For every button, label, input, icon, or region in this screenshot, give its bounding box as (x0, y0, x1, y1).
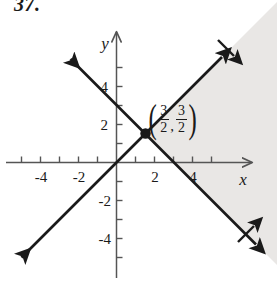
x-fraction-denominator: 2 (159, 121, 168, 135)
y-fraction-numerator: 3 (177, 104, 186, 118)
x-tick-label-4: 4 (189, 169, 197, 185)
y-tick-label-4: 4 (101, 79, 109, 95)
x-tick-label--2: -2 (73, 169, 86, 185)
y-tick-label-2: 2 (101, 117, 109, 133)
left-paren: ( (149, 103, 157, 136)
y-tick-label--2: -2 (99, 193, 112, 209)
y-axis-label: y (99, 34, 109, 53)
x-axis-label: x (238, 170, 247, 189)
y-coordinate-fraction: 3 2 (176, 104, 187, 136)
y-tick-label--4: -4 (99, 231, 112, 247)
coordinate-comma: , (170, 119, 174, 136)
x-tick-label--4: -4 (35, 169, 48, 185)
y-fraction-denominator: 2 (177, 121, 186, 135)
figure-container: 37. (0, 0, 277, 282)
x-fraction-numerator: 3 (159, 104, 168, 118)
coordinate-plane-chart: y x -4 -2 2 4 4 2 -2 -4 (0, 0, 277, 282)
point-coordinate-label: ( 3 2 , 3 2 ) (148, 103, 197, 136)
right-paren: ) (189, 103, 197, 136)
x-tick-label-2: 2 (151, 169, 159, 185)
x-coordinate-fraction: 3 2 (158, 104, 169, 136)
